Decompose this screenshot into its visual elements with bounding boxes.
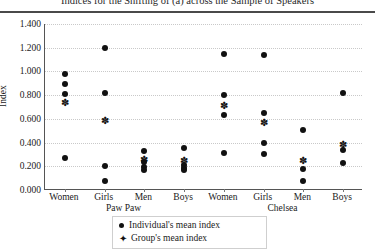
data-point-individual bbox=[181, 145, 187, 151]
data-point-individual bbox=[62, 71, 68, 77]
chart-title: Indices for the Shifting of (a) across t… bbox=[0, 0, 375, 7]
x-axis-category-label: Women bbox=[208, 192, 237, 202]
data-point-individual bbox=[340, 90, 346, 96]
x-axis-group-label: Paw Paw bbox=[106, 203, 141, 213]
y-axis-tick-label: 1.400 bbox=[20, 19, 41, 29]
y-axis-label: Index bbox=[0, 85, 8, 107]
data-point-individual bbox=[102, 163, 108, 169]
data-point-individual bbox=[340, 160, 346, 166]
filled-circle-icon bbox=[119, 223, 124, 228]
y-axis-tick-label: 0.000 bbox=[20, 185, 41, 195]
x-axis-category-label: Women bbox=[49, 192, 78, 202]
y-axis-tick-label: 0.400 bbox=[20, 138, 41, 148]
data-point-individual bbox=[261, 110, 267, 116]
y-axis-tick-label: 0.600 bbox=[20, 114, 41, 124]
x-axis-group-label: Chelsea bbox=[267, 203, 297, 213]
open-diamond-icon: ✦ bbox=[119, 234, 126, 244]
y-axis-tick-label: 1.200 bbox=[20, 43, 41, 53]
data-point-individual bbox=[102, 45, 108, 51]
data-point-individual bbox=[102, 90, 108, 96]
y-axis-tick-label: 0.800 bbox=[20, 90, 41, 100]
x-axis-category-label: Men bbox=[135, 192, 152, 202]
gridline bbox=[45, 166, 362, 167]
gridline bbox=[45, 119, 362, 120]
x-axis-category-label: Boys bbox=[173, 192, 193, 202]
data-point-individual bbox=[300, 178, 306, 184]
x-axis-category-label: Men bbox=[294, 192, 311, 202]
gridline bbox=[45, 95, 362, 96]
data-point-individual bbox=[62, 81, 68, 87]
x-axis-category-label: Girls bbox=[253, 192, 272, 202]
data-point-individual bbox=[102, 178, 108, 184]
gridline bbox=[45, 24, 362, 25]
title-divider bbox=[0, 11, 375, 13]
data-point-individual bbox=[141, 167, 147, 173]
data-point-group-mean: ✽ bbox=[100, 116, 109, 125]
data-point-individual bbox=[261, 151, 267, 157]
data-point-individual bbox=[221, 51, 227, 57]
data-point-individual bbox=[221, 150, 227, 156]
legend-item-group: ✦ Group's mean index bbox=[119, 232, 260, 245]
data-point-group-mean: ✽ bbox=[140, 154, 149, 163]
data-point-individual bbox=[261, 140, 267, 146]
data-point-individual bbox=[300, 166, 306, 172]
data-point-group-mean: ✽ bbox=[60, 97, 69, 106]
gridline bbox=[45, 143, 362, 144]
x-axis-category-label: Boys bbox=[332, 192, 352, 202]
legend-label-individual: Individual's mean index bbox=[129, 219, 220, 232]
legend-item-individual: Individual's mean index bbox=[119, 219, 260, 232]
data-point-individual bbox=[300, 127, 306, 133]
y-axis-tick-label: 0.200 bbox=[20, 161, 41, 171]
data-point-individual bbox=[62, 155, 68, 161]
plot-area: 0.0000.2000.4000.6000.8001.0001.2001.400… bbox=[44, 24, 362, 190]
chart-legend: Individual's mean index ✦ Group's mean i… bbox=[112, 216, 267, 249]
gridline bbox=[45, 48, 362, 49]
y-axis-tick-label: 1.000 bbox=[20, 66, 41, 76]
data-point-individual bbox=[221, 92, 227, 98]
x-axis-category-label: Girls bbox=[94, 192, 113, 202]
data-point-group-mean: ✽ bbox=[219, 100, 228, 109]
data-point-group-mean: ✽ bbox=[180, 156, 189, 165]
chart-figure: Indices for the Shifting of (a) across t… bbox=[0, 0, 375, 249]
data-point-group-mean: ✽ bbox=[259, 118, 268, 127]
gridline bbox=[45, 71, 362, 72]
data-point-group-mean: ✽ bbox=[299, 155, 308, 164]
data-point-individual bbox=[261, 52, 267, 58]
data-point-individual bbox=[221, 112, 227, 118]
data-point-group-mean: ✽ bbox=[339, 139, 348, 148]
data-point-individual bbox=[181, 167, 187, 173]
legend-label-group: Group's mean index bbox=[131, 232, 207, 245]
